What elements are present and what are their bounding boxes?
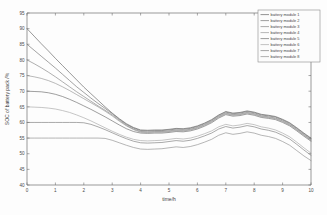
x-tick-label: 1 — [54, 188, 57, 193]
y-tick-label: 55 — [19, 136, 25, 141]
x-tick-label: 8 — [253, 188, 256, 193]
y-tick-label: 40 — [19, 183, 25, 188]
y-tick-label: 70 — [19, 89, 25, 94]
y-tick-label: 80 — [19, 58, 25, 63]
x-tick-label: 5 — [168, 188, 171, 193]
y-tick-label: 60 — [19, 120, 25, 125]
legend-label-6: battery module 6 — [271, 42, 300, 47]
x-tick-label: 0 — [26, 188, 29, 193]
series-line-7 — [27, 122, 311, 155]
chart-figure: 012345678910404550556065707580859095 bat… — [0, 0, 327, 215]
legend-label-7: battery module 7 — [271, 48, 300, 53]
x-tick-label: 4 — [139, 188, 142, 193]
legend-label-5: battery module 5 — [271, 36, 300, 41]
legend-label-3: battery module 3 — [271, 24, 300, 29]
x-tick-label: 10 — [308, 188, 314, 193]
legend-label-2: battery module 2 — [271, 18, 300, 23]
y-tick-label: 65 — [19, 105, 25, 110]
x-tick-label: 3 — [111, 188, 114, 193]
legend-label-1: battery module 1 — [271, 12, 300, 17]
y-axis-label: SOC of battery pack /% — [4, 72, 10, 125]
y-tick-label: 90 — [19, 26, 25, 31]
y-tick-label: 45 — [19, 167, 25, 172]
series-line-8 — [27, 132, 311, 161]
y-tick-label: 85 — [19, 42, 25, 47]
chart-legend: battery module 1battery module 2battery … — [258, 10, 320, 62]
y-tick-label: 95 — [19, 11, 25, 16]
legend-label-4: battery module 4 — [271, 30, 301, 35]
legend-label-8: battery module 8 — [271, 54, 300, 59]
x-tick-label: 2 — [83, 188, 86, 193]
y-tick-label: 50 — [19, 151, 25, 156]
y-tick-label: 75 — [19, 73, 25, 78]
x-axis-label: time/h — [162, 196, 176, 202]
x-tick-label: 9 — [281, 188, 284, 193]
chart-plot-area: 012345678910404550556065707580859095 bat… — [0, 0, 327, 215]
x-tick-label: 7 — [225, 188, 228, 193]
x-tick-label: 6 — [196, 188, 199, 193]
series-line-3 — [27, 60, 311, 140]
